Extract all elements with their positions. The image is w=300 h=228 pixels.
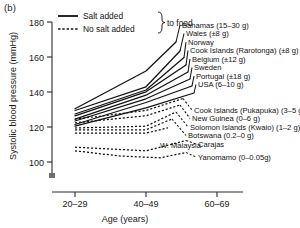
leader-norway bbox=[184, 42, 186, 58]
legend-brace-label: to food bbox=[167, 18, 193, 28]
y-tick-label-120: 120 bbox=[29, 123, 44, 133]
axis-break-marker bbox=[49, 173, 55, 178]
series-group-salt-added bbox=[75, 42, 194, 126]
leader-solomon-islands-kwaio bbox=[176, 112, 188, 127]
figure-panel-b: (b) 180 160 140 120 100 Systolic blood p… bbox=[0, 0, 300, 228]
legend-brace bbox=[158, 12, 165, 33]
leader-cook-islands-pukapuka bbox=[183, 99, 192, 111]
y-tick-label-180: 180 bbox=[29, 18, 44, 28]
leader-usa bbox=[194, 85, 196, 94]
x-tick-label-60-69: 60–69 bbox=[204, 199, 229, 209]
series-line-w-malaysia bbox=[75, 128, 168, 133]
leader-bahamas bbox=[176, 25, 180, 42]
x-tick-label-20-29: 20–29 bbox=[62, 199, 87, 209]
chart-legend: Salt added No salt added to food bbox=[58, 11, 193, 34]
annotation-w-malaysia: W. Malaysia bbox=[160, 141, 202, 150]
leader-belgium bbox=[188, 59, 190, 72]
legend-label-salt-added: Salt added bbox=[83, 11, 123, 21]
x-axis-title: Age (years) bbox=[102, 214, 149, 224]
x-tick-label-40-49: 40–49 bbox=[133, 199, 158, 209]
legend-label-no-salt-added: No salt added bbox=[83, 24, 135, 34]
y-axis: 180 160 140 120 100 Systolic blood press… bbox=[8, 18, 55, 179]
series-line-yanomamo bbox=[75, 151, 186, 158]
y-tick-label-100: 100 bbox=[29, 158, 44, 168]
annotation-labels-salt-added: Bahamas (15–30 g) Wales (±8 g) Norway Co… bbox=[182, 21, 299, 90]
annotation-carajas: Carajas bbox=[198, 140, 224, 149]
y-axis-title: Systolic blood pressure (mmHg) bbox=[8, 32, 18, 160]
chart-svg: 180 160 140 120 100 Systolic blood press… bbox=[0, 0, 300, 228]
leader-portugal bbox=[192, 76, 194, 86]
y-tick-label-160: 160 bbox=[29, 53, 44, 63]
annotation-yanomamo: Yanomamo (0–0.05g) bbox=[198, 153, 271, 162]
annotation-usa: USA (6–10 g) bbox=[198, 80, 244, 89]
leader-cook-islands-rarotonga bbox=[186, 51, 188, 66]
leader-new-guinea bbox=[180, 105, 190, 119]
annotation-labels-no-salt-added: Cook Islands (Pukapuka) (3–5 g) New Guin… bbox=[160, 106, 300, 162]
leader-yanomamo bbox=[186, 153, 196, 158]
leader-sweden bbox=[190, 68, 192, 80]
leader-wales bbox=[180, 34, 184, 52]
x-axis: 20–29 40–49 60–69 Age (years) bbox=[52, 192, 243, 224]
y-tick-label-140: 140 bbox=[29, 88, 44, 98]
